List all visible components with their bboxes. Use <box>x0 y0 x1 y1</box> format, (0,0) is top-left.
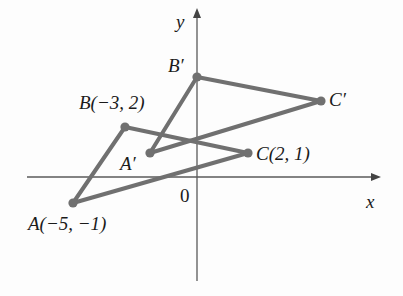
triangle-image-outline <box>150 77 321 153</box>
x-axis-label: x <box>366 192 374 211</box>
vertex-a-prime-dot <box>145 148 154 157</box>
figure-canvas <box>0 0 403 296</box>
geometry-figure: y x 0 A(−5, −1) B(−3, 2) C(2, 1) A′ B′ C… <box>0 0 403 296</box>
label-point-c-prime: C′ <box>329 90 346 109</box>
vertex-c-dot <box>243 148 252 157</box>
vertex-c-prime-dot <box>316 96 325 105</box>
y-axis-label: y <box>176 12 184 31</box>
label-point-b-prime: B′ <box>168 56 184 75</box>
origin-label: 0 <box>180 186 190 205</box>
label-point-a-prime: A′ <box>120 154 136 173</box>
label-point-b: B(−3, 2) <box>79 93 145 112</box>
vertex-a-dot <box>68 198 77 207</box>
axes-group <box>27 17 372 281</box>
vertex-b-prime-dot <box>192 72 201 81</box>
label-point-a: A(−5, −1) <box>28 214 106 233</box>
label-point-c: C(2, 1) <box>256 144 310 163</box>
vertex-b-dot <box>120 122 129 131</box>
